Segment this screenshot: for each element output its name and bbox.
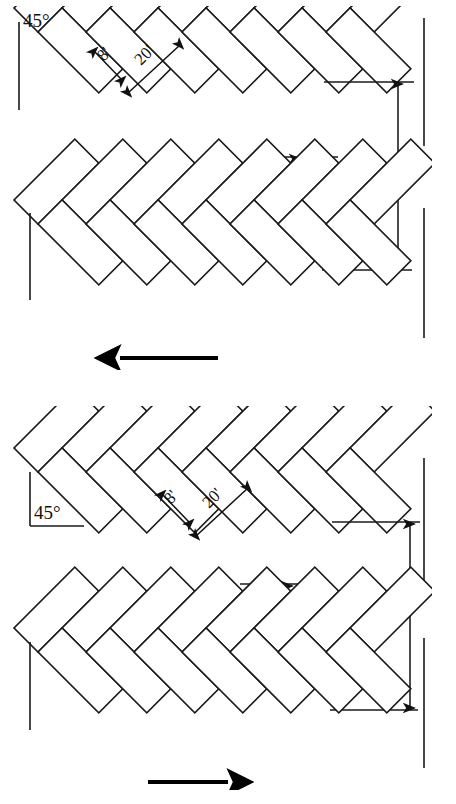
mask-top [0,0,456,6]
angle-label-bottom: 45° [34,502,61,523]
upper-band-2 [14,139,435,285]
lower-band-2 [14,567,435,713]
mask-bottom-2 [0,790,456,804]
parking-layout-svg: 45° 8' 20' 45' 11' [0,0,456,804]
mask-mid-gap [0,370,456,406]
diagram-canvas: 45° 8' 20' 45' 11' [0,0,456,804]
lower-band-1 [14,387,435,533]
angle-label-top: 45° [23,10,50,31]
